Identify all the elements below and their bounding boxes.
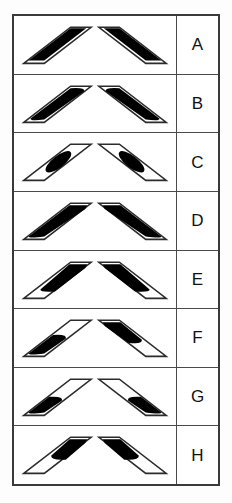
row-label-cell-c: C: [176, 133, 218, 191]
row-label-g: G: [191, 388, 204, 405]
row-label-cell-f: F: [176, 309, 218, 367]
row-label-d: D: [191, 212, 203, 229]
left-parallelogram-g: [24, 379, 91, 415]
table-row: H: [14, 426, 218, 484]
row-label-cell-b: B: [176, 75, 218, 133]
table-row: D: [14, 192, 218, 251]
parallelogram-pair-a: [14, 16, 176, 74]
row-label-cell-a: A: [176, 16, 218, 74]
left-parallelogram-b: [24, 86, 91, 122]
right-parallelogram-d: [99, 203, 166, 239]
right-parallelogram-b: [99, 86, 166, 122]
row-label-e: E: [192, 271, 203, 288]
table-row: B: [14, 75, 218, 134]
row-label-c: C: [191, 154, 203, 171]
table-row: A: [14, 16, 218, 75]
left-parallelogram-a: [24, 27, 91, 63]
right-parallelogram-f: [99, 320, 166, 356]
row-label-cell-g: G: [176, 368, 218, 426]
figure-sheet: A B: [0, 0, 232, 503]
parallelogram-pair-f: [14, 309, 176, 367]
row-label-cell-h: H: [176, 426, 218, 484]
parallelogram-pair-g: [14, 368, 176, 426]
figure-pair-f: [14, 309, 176, 367]
right-parallelogram-a: [99, 27, 166, 63]
table-row: G: [14, 368, 218, 427]
row-label-a: A: [192, 36, 203, 53]
parallelogram-pair-d: [14, 192, 176, 250]
parallelogram-pair-h: [14, 426, 176, 484]
row-label-f: F: [192, 329, 202, 346]
option-grid: A B: [12, 14, 220, 486]
figure-pair-d: [14, 192, 176, 250]
table-row: E: [14, 251, 218, 310]
row-label-cell-d: D: [176, 192, 218, 250]
figure-pair-g: [14, 368, 176, 426]
figure-pair-h: [14, 426, 176, 484]
figure-pair-a: [14, 16, 176, 74]
left-parallelogram-c: [24, 144, 91, 180]
table-row: F: [14, 309, 218, 368]
figure-pair-b: [14, 75, 176, 133]
right-parallelogram-h: [99, 438, 166, 474]
parallelogram-pair-b: [14, 75, 176, 133]
figure-pair-c: [14, 133, 176, 191]
row-label-b: B: [192, 95, 203, 112]
parallelogram-pair-e: [14, 251, 176, 309]
figure-pair-e: [14, 251, 176, 309]
left-parallelogram-e: [24, 262, 91, 298]
left-parallelogram-f: [24, 320, 91, 356]
parallelogram-pair-c: [14, 133, 176, 191]
right-parallelogram-g: [99, 379, 166, 415]
right-parallelogram-c: [99, 144, 166, 180]
left-parallelogram-h: [24, 438, 91, 474]
left-parallelogram-d: [24, 203, 91, 239]
row-label-cell-e: E: [176, 251, 218, 309]
right-parallelogram-e: [99, 262, 166, 298]
table-row: C: [14, 133, 218, 192]
row-label-h: H: [191, 447, 203, 464]
